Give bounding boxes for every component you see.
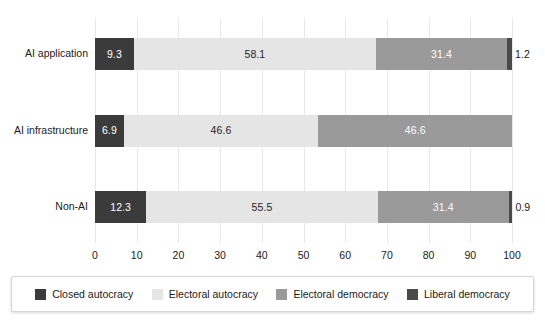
plot-wrapper: 9.358.131.41.26.946.646.612.355.531.40.9…: [0, 0, 545, 262]
bar-segment-value: 55.5: [252, 202, 273, 213]
y-axis-category-label: AI application: [0, 48, 88, 59]
legend-swatch-icon: [407, 289, 418, 300]
legend-item[interactable]: Liberal democracy: [407, 289, 510, 300]
legend-label: Electoral autocracy: [169, 289, 258, 300]
bar-segment-value: 46.6: [211, 125, 232, 136]
y-axis-category-label: AI infrastructure: [0, 125, 88, 136]
bar-segment-value: 9.3: [107, 49, 122, 60]
bar-segment: 6.9: [95, 115, 124, 147]
y-axis-category-label: Non-AI: [0, 201, 88, 212]
bar-segment-value: 46.6: [405, 125, 426, 136]
x-axis-tick-label: 60: [339, 250, 351, 261]
bar-segment: 58.1: [134, 38, 376, 70]
bar-segment: 12.3: [95, 191, 146, 223]
x-axis-tick-label: 80: [423, 250, 435, 261]
bar-segment: 0.9: [509, 191, 513, 223]
bar-segment-value: 31.4: [433, 202, 454, 213]
bar-segment: 55.5: [146, 191, 377, 223]
legend-swatch-icon: [35, 289, 46, 300]
stacked-bar-chart: 9.358.131.41.26.946.646.612.355.531.40.9…: [0, 0, 545, 328]
x-axis-tick-label: 20: [173, 250, 185, 261]
bar-segment-value: 58.1: [244, 49, 265, 60]
x-axis-tick-label: 70: [381, 250, 393, 261]
bar-segment-value: 6.9: [102, 125, 117, 136]
bar-segment: 1.2: [507, 38, 512, 70]
bar-segment: 9.3: [95, 38, 134, 70]
legend-item[interactable]: Closed autocracy: [35, 289, 133, 300]
legend-label: Liberal democracy: [424, 289, 510, 300]
legend-item[interactable]: Electoral autocracy: [152, 289, 258, 300]
legend-label: Electoral democracy: [293, 289, 388, 300]
x-axis-tick-label: 100: [503, 250, 521, 261]
x-axis-tick-label: 90: [464, 250, 476, 261]
bar-row: 9.358.131.41.2: [95, 38, 512, 70]
bar-segment: 31.4: [378, 191, 509, 223]
legend-swatch-icon: [152, 289, 163, 300]
x-axis-tick-label: 50: [298, 250, 310, 261]
bar-row: 6.946.646.6: [95, 115, 512, 147]
x-axis-tick-label: 10: [131, 250, 143, 261]
x-axis-tick-label: 30: [214, 250, 226, 261]
bar-segment-value: 12.3: [110, 202, 131, 213]
bar-segment: 46.6: [318, 115, 512, 147]
chart-legend: Closed autocracyElectoral autocracyElect…: [11, 276, 534, 312]
bar-row: 12.355.531.40.9: [95, 191, 512, 223]
bar-segment: 46.6: [124, 115, 318, 147]
legend-label: Closed autocracy: [52, 289, 133, 300]
bar-segment-value: 31.4: [431, 49, 452, 60]
bar-segment-value: 1.2: [515, 49, 530, 60]
x-axis-tick-label: 40: [256, 250, 268, 261]
x-axis-tick-label: 0: [92, 250, 98, 261]
legend-item[interactable]: Electoral democracy: [276, 289, 388, 300]
bar-segment: 31.4: [376, 38, 507, 70]
bar-segment-value: 0.9: [515, 202, 530, 213]
legend-swatch-icon: [276, 289, 287, 300]
plot-area: 9.358.131.41.26.946.646.612.355.531.40.9: [95, 18, 512, 243]
